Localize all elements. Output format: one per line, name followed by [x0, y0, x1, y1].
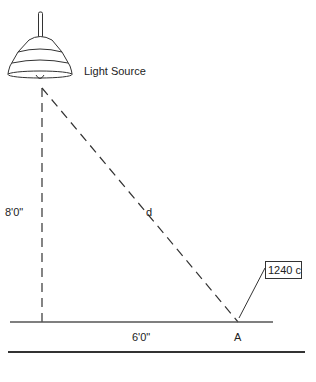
point-a-label: A: [234, 331, 242, 343]
distance-line: [42, 88, 238, 322]
illumination-diagram: Light Source 8'0" d 6'0" A 1240 c: [0, 0, 316, 382]
callout-leader: [239, 268, 265, 318]
horizontal-distance-label: 6'0": [132, 331, 150, 343]
lamp-icon: [8, 12, 72, 79]
distance-label: d: [146, 206, 152, 218]
light-source-label: Light Source: [84, 65, 146, 77]
height-label: 8'0": [5, 206, 23, 218]
illuminance-label: 1240 c: [268, 264, 302, 276]
